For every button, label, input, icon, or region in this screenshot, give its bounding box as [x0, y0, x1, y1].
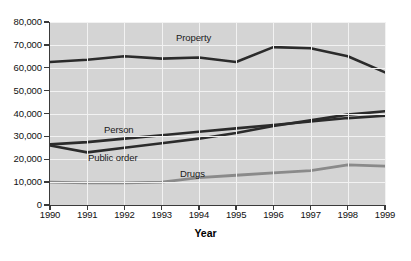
- y-axis-tick-label: 70,000: [0, 39, 42, 50]
- gridline-vertical: [311, 22, 312, 205]
- x-axis-tick: [124, 205, 125, 210]
- gridline-horizontal: [50, 136, 385, 137]
- gridline-horizontal: [50, 114, 385, 115]
- gridline-vertical: [385, 22, 386, 205]
- y-axis-tick: [44, 44, 49, 45]
- x-axis-tick: [310, 205, 311, 210]
- x-axis-tick-label: 1999: [365, 209, 405, 220]
- gridline-horizontal: [50, 91, 385, 92]
- x-axis-tick: [384, 205, 385, 210]
- y-axis-tick-label: 80,000: [0, 16, 42, 27]
- y-axis-tick: [44, 159, 49, 160]
- x-axis-tick: [273, 205, 274, 210]
- x-axis-tick-label: 1994: [179, 209, 219, 220]
- y-axis-tick: [44, 204, 49, 205]
- y-axis-line: [49, 22, 50, 206]
- x-axis-tick-label: 1996: [253, 209, 293, 220]
- x-axis-line: [49, 205, 385, 206]
- x-axis-tick-label: 1998: [328, 209, 368, 220]
- gridline-vertical: [236, 22, 237, 205]
- x-axis-tick: [49, 205, 50, 210]
- gridline-horizontal: [50, 182, 385, 183]
- series-label-person: Person: [104, 124, 134, 135]
- x-axis-tick-label: 1997: [291, 209, 331, 220]
- y-axis-tick-label: 20,000: [0, 153, 42, 164]
- x-axis-tick: [87, 205, 88, 210]
- y-axis-tick: [44, 113, 49, 114]
- y-axis-tick-label: 60,000: [0, 62, 42, 73]
- gridline-vertical: [87, 22, 88, 205]
- y-axis-tick-label: 40,000: [0, 108, 42, 119]
- x-axis-tick-label: 1992: [104, 209, 144, 220]
- x-axis-tick: [161, 205, 162, 210]
- gridline-horizontal: [50, 45, 385, 46]
- series-label-public-order: Public order: [88, 152, 138, 163]
- gridline-vertical: [124, 22, 125, 205]
- gridline-vertical: [273, 22, 274, 205]
- y-axis-tick-label: 10,000: [0, 176, 42, 187]
- y-axis-tick: [44, 136, 49, 137]
- gridline-horizontal: [50, 68, 385, 69]
- x-axis-tick: [198, 205, 199, 210]
- series-label-drugs: Drugs: [180, 168, 205, 179]
- line-chart: 010,00020,00030,00040,00050,00060,00070,…: [0, 0, 411, 261]
- gridline-vertical: [162, 22, 163, 205]
- gridline-horizontal: [50, 22, 385, 23]
- y-axis-tick: [44, 90, 49, 91]
- gridline-vertical: [348, 22, 349, 205]
- x-axis-title: Year: [0, 227, 411, 239]
- y-axis-tick: [44, 21, 49, 22]
- y-axis-tick-label: 30,000: [0, 130, 42, 141]
- x-axis-tick-label: 1991: [67, 209, 107, 220]
- x-axis-tick: [235, 205, 236, 210]
- series-label-property: Property: [176, 32, 211, 43]
- y-axis-tick: [44, 67, 49, 68]
- series-line-drugs: [50, 165, 385, 183]
- x-axis-tick-label: 1993: [142, 209, 182, 220]
- plot-area: [50, 22, 385, 205]
- y-axis-tick-label: 50,000: [0, 85, 42, 96]
- x-axis-tick-label: 1995: [216, 209, 256, 220]
- y-axis-tick-labels: 010,00020,00030,00040,00050,00060,00070,…: [0, 0, 42, 261]
- y-axis-tick: [44, 181, 49, 182]
- x-axis-tick-label: 1990: [30, 209, 70, 220]
- x-axis-tick: [347, 205, 348, 210]
- series-line-person: [50, 116, 385, 145]
- series-line-public-order: [50, 111, 385, 152]
